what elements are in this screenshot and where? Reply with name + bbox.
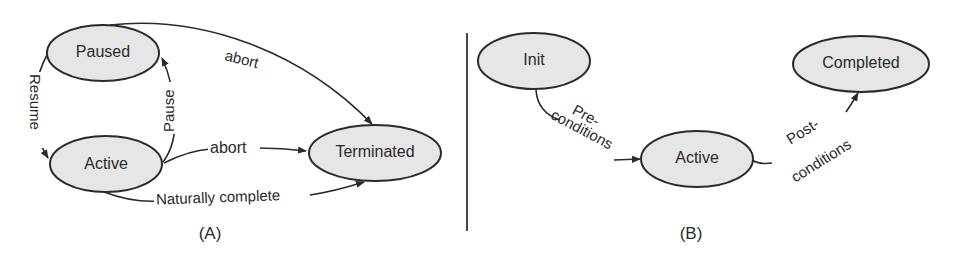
node-label-init: Init [523,51,545,68]
node-paused: Paused [47,25,159,81]
edge-label-pause: Pause [160,89,177,132]
edge-label-paused-abort: abort [223,46,261,71]
node-label-active-b: Active [675,149,719,166]
edge-active-to-completed [752,160,772,164]
state-diagrams-canvas: abort Resume Pause abort Naturally compl… [0,0,954,260]
diagram-b: Pre- conditions Post- conditions Init Ac… [478,33,929,243]
caption-a: (A) [199,224,222,243]
node-label-paused: Paused [76,43,130,60]
node-init: Init [478,33,590,89]
edge-active-to-completed-head [846,93,858,112]
node-terminated: Terminated [309,125,441,181]
edge-label-post: Post- [783,115,822,148]
node-label-completed: Completed [822,54,899,71]
node-label-terminated: Terminated [335,143,414,160]
node-label-active-a: Active [84,155,128,172]
diagram-a: abort Resume Pause abort Naturally compl… [26,23,441,243]
node-active-a: Active [50,136,162,192]
edge-label-active-abort: abort [210,139,247,156]
edge-label-resume: Resume [27,74,44,130]
node-active-b: Active [641,131,753,187]
node-completed: Completed [793,36,929,92]
caption-b: (B) [680,224,703,243]
edge-init-to-active-tail [614,159,640,160]
